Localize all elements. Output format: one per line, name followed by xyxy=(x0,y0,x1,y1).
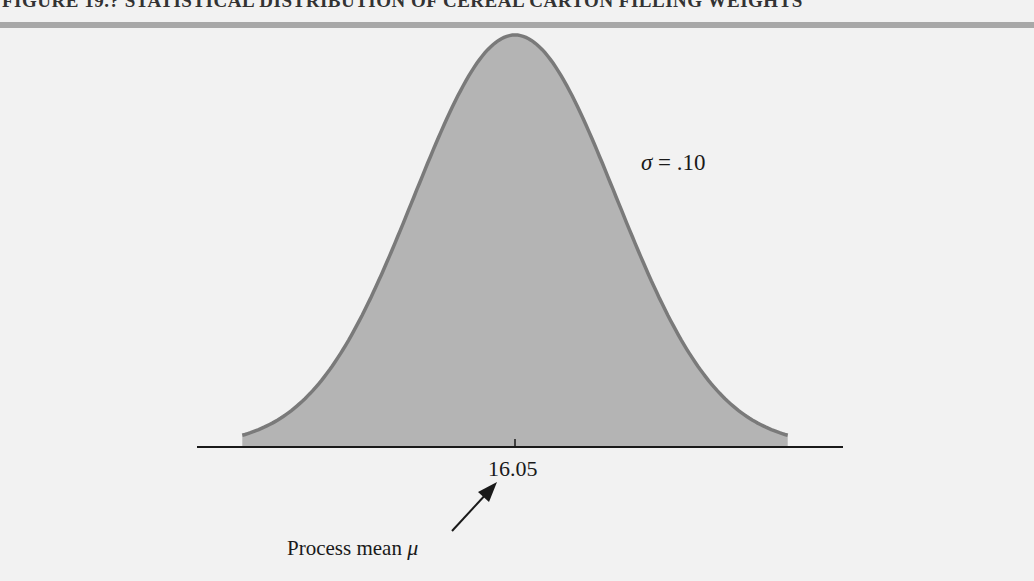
mu-symbol: μ xyxy=(407,535,418,560)
sigma-value: = .10 xyxy=(652,150,705,175)
process-mean-text: Process mean xyxy=(287,536,407,560)
sigma-symbol: σ xyxy=(641,150,652,175)
mean-tick-label: 16.05 xyxy=(488,456,538,482)
sigma-annotation: σ = .10 xyxy=(641,150,706,176)
process-mean-caption: Process mean μ xyxy=(287,535,418,561)
normal-distribution-chart xyxy=(0,0,1034,581)
mean-arrow xyxy=(452,482,497,531)
distribution-area xyxy=(242,35,787,446)
